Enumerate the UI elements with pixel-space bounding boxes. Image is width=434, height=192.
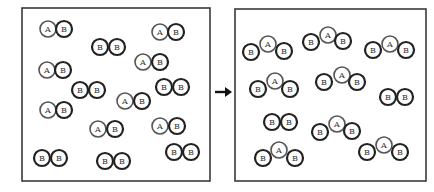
molecule-bb: BB bbox=[72, 82, 105, 98]
product-molecules: ABBABBABBABBABBBBBBABBABBABB bbox=[243, 27, 414, 166]
atom-label: B bbox=[402, 93, 408, 102]
molecule-ab: AB bbox=[117, 93, 150, 109]
molecule-bab: ABB bbox=[312, 116, 360, 140]
atom-label: B bbox=[174, 122, 180, 131]
atom-label: A bbox=[275, 146, 282, 155]
atom-label: B bbox=[178, 83, 184, 92]
molecule-bb: BB bbox=[92, 39, 125, 55]
atom-label: B bbox=[370, 46, 376, 55]
atom-label: B bbox=[385, 93, 391, 102]
atom-label: B bbox=[61, 25, 67, 34]
atom-label: A bbox=[264, 40, 271, 49]
atom-label: B bbox=[60, 66, 66, 75]
molecule-ab: AB bbox=[90, 121, 123, 137]
atom-label: B bbox=[171, 148, 177, 157]
atom-label: A bbox=[386, 40, 393, 49]
atom-label: A bbox=[380, 141, 387, 150]
molecule-ab: AB bbox=[40, 21, 72, 37]
atom-label: B bbox=[94, 86, 100, 95]
molecule-bab: ABB bbox=[250, 73, 298, 97]
atom-label: B bbox=[260, 154, 266, 163]
molecule-bab: ABB bbox=[303, 27, 351, 50]
atom-label: A bbox=[333, 120, 340, 129]
atom-label: B bbox=[61, 106, 67, 115]
atom-label: A bbox=[44, 106, 51, 115]
atom-label: B bbox=[157, 58, 163, 67]
atom-label: A bbox=[338, 71, 345, 80]
molecule-bb: BB bbox=[166, 144, 199, 160]
atom-label: B bbox=[39, 154, 45, 163]
atom-label: B bbox=[161, 83, 167, 92]
atom-label: A bbox=[324, 31, 331, 40]
molecule-bb: BB bbox=[34, 150, 67, 166]
atom-label: A bbox=[121, 97, 128, 106]
atom-label: B bbox=[340, 37, 346, 46]
atom-label: B bbox=[56, 154, 62, 163]
atom-label: B bbox=[308, 38, 314, 47]
molecule-bab: ABB bbox=[359, 137, 408, 160]
atom-label: B bbox=[287, 85, 293, 94]
molecule-ab: AB bbox=[40, 102, 72, 118]
atom-label: B bbox=[281, 47, 287, 56]
molecule-ab: AB bbox=[39, 62, 71, 78]
atom-label: B bbox=[102, 157, 108, 166]
atom-label: B bbox=[248, 48, 254, 57]
atom-label: A bbox=[43, 66, 50, 75]
atom-label: B bbox=[397, 148, 403, 157]
atom-label: B bbox=[112, 125, 118, 134]
molecule-bab: ABB bbox=[243, 36, 292, 60]
atom-label: B bbox=[349, 127, 355, 136]
atom-label: B bbox=[139, 97, 145, 106]
molecule-bab: ABB bbox=[365, 36, 414, 58]
atom-label: A bbox=[139, 58, 146, 67]
molecule-ab: AB bbox=[152, 118, 185, 134]
reaction-diagram: ABABBBABABBBBBABABABABBBBBBB ABBABBABBAB… bbox=[0, 0, 434, 192]
atom-label: A bbox=[44, 25, 51, 34]
atom-label: B bbox=[321, 78, 327, 87]
atom-label: B bbox=[317, 128, 323, 137]
atom-label: B bbox=[119, 157, 125, 166]
atom-label: B bbox=[255, 85, 261, 94]
reactant-molecules: ABABBBABABBBBBABABABABBBBBBB bbox=[34, 21, 199, 169]
atom-label: B bbox=[364, 148, 370, 157]
molecule-bb: BB bbox=[156, 79, 189, 95]
atom-label: B bbox=[354, 78, 360, 87]
atom-label: B bbox=[97, 43, 103, 52]
atom-label: B bbox=[269, 118, 275, 127]
molecule-ab: AB bbox=[135, 54, 168, 70]
molecule-bab: ABB bbox=[316, 67, 365, 90]
atom-label: B bbox=[403, 46, 409, 55]
molecule-bb: BB bbox=[97, 153, 130, 169]
molecule-bb: BB bbox=[264, 114, 297, 130]
atom-label: B bbox=[286, 118, 292, 127]
molecule-bab: ABB bbox=[255, 142, 303, 166]
atom-label: B bbox=[292, 154, 298, 163]
atom-label: B bbox=[77, 86, 83, 95]
atom-label: B bbox=[173, 28, 179, 37]
atom-label: A bbox=[94, 125, 101, 134]
atom-label: B bbox=[188, 148, 194, 157]
atom-label: B bbox=[114, 43, 120, 52]
molecule-ab: AB bbox=[152, 24, 184, 40]
reaction-arrow-icon bbox=[215, 87, 232, 97]
atom-label: A bbox=[156, 122, 163, 131]
molecule-bb: BB bbox=[380, 89, 413, 105]
atom-label: A bbox=[156, 28, 163, 37]
atom-label: A bbox=[271, 77, 278, 86]
